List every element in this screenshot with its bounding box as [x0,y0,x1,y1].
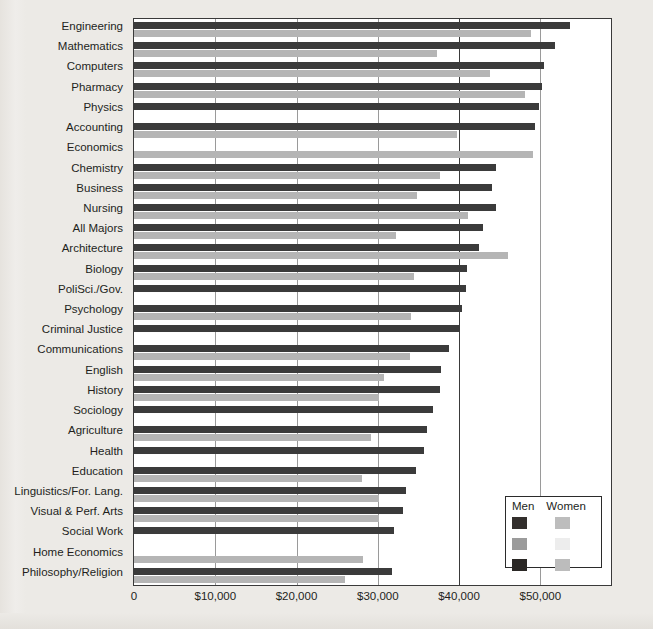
legend-swatch-men [512,538,527,550]
bar-row [134,345,611,365]
bar-men [134,305,462,312]
bar-row [134,22,611,42]
bar-men [134,568,392,575]
bar-row [134,224,611,244]
bar-men [134,345,449,352]
bar-men [134,265,467,272]
category-label: Nursing [83,202,123,214]
bar-men [134,467,416,474]
x-tick-label: $50,000 [520,590,562,602]
bar-row [134,42,611,62]
bar-women [134,353,410,360]
category-label: All Majors [73,222,123,234]
value-axis-labels: 0$10,000$20,000$30,000$40,000$50,000 [0,590,653,612]
legend-swatch-rows [512,515,596,575]
bar-row [134,164,611,184]
legend-row [512,536,596,554]
bar-men [134,42,555,49]
legend-swatch-men [512,559,527,571]
bar-men [134,22,570,29]
bar-men [134,406,433,413]
chart-page: EngineeringMathematicsComputersPharmacyP… [0,0,653,629]
bar-row [134,62,611,82]
bar-men [134,507,403,514]
category-label: Economics [67,141,123,153]
category-label: Agriculture [68,424,123,436]
bar-men [134,103,539,110]
bar-women [134,70,490,77]
bar-women [134,394,379,401]
bar-women [134,313,411,320]
bar-men [134,204,496,211]
category-label: Education [72,465,123,477]
category-label: Physics [83,101,123,113]
category-label: Linguistics/For. Lang. [14,485,123,497]
bar-women [134,91,525,98]
bar-men [134,184,492,191]
category-label: Sociology [73,404,123,416]
category-label: Psychology [64,303,123,315]
bar-men [134,123,535,130]
page-texture-bottom [0,613,653,629]
bar-women [134,576,345,583]
bar-row [134,305,611,325]
bar-women [134,556,363,563]
category-label: Visual & Perf. Arts [31,505,123,517]
bar-row [134,285,611,305]
x-tick-label: $20,000 [276,590,318,602]
bar-row [134,386,611,406]
bar-row [134,204,611,224]
bar-men [134,426,427,433]
bar-row [134,103,611,123]
bar-row [134,447,611,467]
category-label: PoliSci./Gov. [58,283,123,295]
bar-women [134,495,379,502]
bar-women [134,50,437,57]
bar-men [134,487,406,494]
bar-row [134,325,611,345]
bar-women [134,151,533,158]
bar-row [134,83,611,103]
bar-row [134,184,611,204]
bar-women [134,131,457,138]
bar-women [134,212,468,219]
bar-women [134,232,396,239]
x-tick-label: $30,000 [357,590,399,602]
bar-women [134,30,531,37]
bar-men [134,83,542,90]
category-label: Accounting [66,121,123,133]
bar-row [134,143,611,163]
legend-swatch-women [555,559,570,571]
bar-row [134,366,611,386]
bar-women [134,172,440,179]
legend-header-women: Women [546,500,596,512]
legend-swatch-women [555,538,570,550]
category-label: Philosophy/Religion [22,566,123,578]
category-label: Criminal Justice [42,323,123,335]
category-label: Computers [67,60,123,72]
bar-row [134,244,611,264]
bar-women [134,475,362,482]
category-label: Communications [37,343,123,355]
bar-women [134,252,508,259]
category-label: Business [76,182,123,194]
x-tick-label: 0 [131,590,137,602]
bar-men [134,366,441,373]
bar-women [134,374,384,381]
category-axis-labels: EngineeringMathematicsComputersPharmacyP… [0,18,129,586]
category-label: Chemistry [71,162,123,174]
category-label: Biology [85,263,123,275]
bar-women [134,273,414,280]
legend-header: Men Women [512,500,596,512]
x-tick-label: $40,000 [438,590,480,602]
chart-legend: Men Women [505,496,602,568]
bar-row [134,467,611,487]
bar-men [134,224,483,231]
bar-men [134,527,394,534]
bar-women [134,434,371,441]
bar-women [134,192,417,199]
bar-men [134,244,479,251]
legend-swatch-women [555,517,570,529]
legend-header-men: Men [512,500,546,512]
bar-women [134,515,379,522]
